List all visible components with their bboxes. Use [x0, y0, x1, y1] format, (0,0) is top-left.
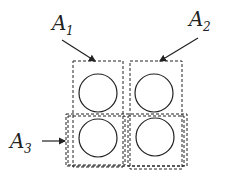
svg-text:1: 1	[66, 24, 74, 38]
circle-bottom-left	[79, 119, 117, 157]
arrow-a2	[160, 38, 198, 61]
svg-text:3: 3	[24, 142, 32, 156]
svg-text:2: 2	[202, 20, 211, 34]
svg-text:A: A	[50, 11, 66, 35]
svg-text:A: A	[8, 129, 24, 153]
circle-top-left	[79, 74, 117, 112]
circle-top-right	[135, 74, 173, 112]
arrow-a1	[62, 40, 95, 61]
label-a2: A 2	[187, 7, 211, 34]
region-a2-box	[130, 61, 182, 169]
region-diagram: A 1 A 2 A 3	[0, 0, 227, 182]
region-a3-box	[66, 114, 187, 166]
label-a3: A 3	[8, 129, 32, 156]
label-a1: A 1	[50, 11, 74, 38]
circle-bottom-right	[136, 118, 174, 156]
svg-text:A: A	[187, 7, 203, 31]
